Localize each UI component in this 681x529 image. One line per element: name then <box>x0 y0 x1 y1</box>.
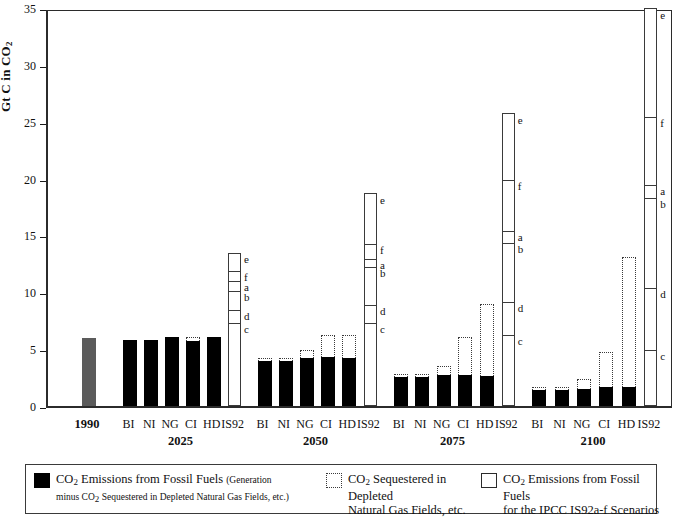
bar-sequestered-segment <box>458 337 472 375</box>
is92-segment-divider <box>503 180 514 181</box>
is92-segment-divider <box>365 259 376 260</box>
bar-fossil-emissions <box>321 354 335 406</box>
bar-fossil-emissions <box>599 384 613 406</box>
is92-segment-label-b: b <box>380 268 386 279</box>
is92-segment-label-e: e <box>660 10 665 21</box>
is92-segment-divider <box>645 288 656 289</box>
bar-sequestered-segment <box>300 350 314 358</box>
is92-segment-divider <box>645 185 656 186</box>
is92-segment-label-d: d <box>660 289 666 300</box>
y-axis-label-main: Gt C in CO <box>0 46 13 112</box>
is92-segment-label-e: e <box>380 195 385 206</box>
is92-segment-divider <box>503 243 514 244</box>
bar-sequestered-segment <box>258 358 272 361</box>
is92-segment-divider <box>503 335 514 336</box>
y-axis-tick-label: 0 <box>2 402 36 412</box>
is92-segment-divider <box>645 117 656 118</box>
legend-swatch-black <box>34 473 50 488</box>
bar-fossil-emissions <box>577 386 591 406</box>
bar-sequestered-segment <box>394 374 408 377</box>
bar-fossil-emissions <box>394 374 408 406</box>
x-axis-group-label-2075: 2075 <box>413 434 493 449</box>
is92-segment-divider <box>503 231 514 232</box>
legend-item-2: CO2 Emissions from Fossil Fuelsfor the I… <box>481 472 661 517</box>
bar-fossil-emissions <box>300 355 314 406</box>
is92-segment-label-b: b <box>660 199 666 210</box>
legend-swatch-open <box>481 473 497 488</box>
is92-segment-divider <box>645 350 656 351</box>
x-axis-group-label-2050: 2050 <box>276 434 356 449</box>
is92-segment-label-b: b <box>244 292 250 303</box>
legend-line-1-paren: (Generation <box>226 475 271 485</box>
is92-segment-divider <box>365 267 376 268</box>
bar-sequestered-segment <box>599 352 613 387</box>
bar-sequestered-segment <box>532 387 546 390</box>
bar-sequestered-segment <box>321 335 335 357</box>
is92-segment-divider <box>229 281 240 282</box>
bar-fossil-emissions <box>437 372 451 406</box>
bar-sequestered-segment <box>555 387 569 390</box>
bar-is92-scenarios <box>228 253 241 407</box>
is92-segment-label-e: e <box>518 115 523 126</box>
bar-fossil-emissions <box>342 355 356 406</box>
bar-fossil-emissions <box>279 358 293 406</box>
bar-fossil-emissions <box>415 374 429 406</box>
is92-segment-divider <box>229 271 240 272</box>
bar-is92-scenarios <box>644 8 657 406</box>
is92-segment-label-e: e <box>244 254 249 265</box>
legend-label: CO2 Emissions from Fossil Fuels (Generat… <box>56 472 289 506</box>
y-axis-tick-label: 5 <box>2 345 36 355</box>
bar-fossil-emissions <box>458 372 472 406</box>
legend-line-1: CO2 Emissions from Fossil Fuels <box>56 472 223 486</box>
is92-segment-label-c: c <box>518 336 523 347</box>
is92-segment-divider <box>229 291 240 292</box>
bar-sequestered-segment <box>342 335 356 358</box>
bar-sequestered-segment <box>279 358 293 361</box>
is92-segment-divider <box>365 305 376 306</box>
is92-segment-label-c: c <box>380 324 385 335</box>
x-axis-tick-label-is92: IS92 <box>629 417 669 432</box>
y-axis-tick-label: 30 <box>2 61 36 71</box>
legend-item-0: CO2 Emissions from Fossil Fuels (Generat… <box>34 472 324 506</box>
is92-segment-label-f: f <box>518 181 522 192</box>
is92-segment-divider <box>645 198 656 199</box>
y-axis-tick-label: 35 <box>2 4 36 14</box>
is92-segment-label-d: d <box>380 306 386 317</box>
bar-sequestered-segment <box>622 257 636 388</box>
legend-label: CO2 Emissions from Fossil Fuelsfor the I… <box>503 472 661 517</box>
is92-segment-divider <box>229 310 240 311</box>
y-axis-tick-label: 15 <box>2 231 36 241</box>
legend-line-1: CO2 Sequestered in Depleted <box>348 472 446 503</box>
is92-segment-label-d: d <box>244 311 250 322</box>
bar-sequestered-segment <box>480 304 494 376</box>
emissions-bar-chart: Gt C in CO2 05101520253035 efabdcefabdce… <box>0 0 681 529</box>
is92-segment-label-c: c <box>660 351 665 362</box>
y-axis-tick-label: 10 <box>2 288 36 298</box>
is92-segment-divider <box>229 323 240 324</box>
is92-segment-label-f: f <box>380 245 384 256</box>
bar-sequestered-segment <box>577 379 591 388</box>
is92-segment-label-f: f <box>660 118 664 129</box>
y-axis-tick-mark <box>40 408 46 409</box>
y-axis-label-subscript: 2 <box>4 41 14 46</box>
bar-fossil-emissions <box>82 338 96 406</box>
bar-fossil-emissions <box>207 337 221 406</box>
legend-line-2: minus CO2 Sequestered in Depleted Natura… <box>56 492 289 502</box>
x-axis-group-label-2025: 2025 <box>141 434 221 449</box>
is92-segment-label-c: c <box>244 324 249 335</box>
is92-segment-label-a: a <box>518 232 523 243</box>
bar-sequestered-segment <box>415 374 429 377</box>
bar-is92-scenarios <box>364 193 377 406</box>
bar-fossil-emissions <box>480 373 494 406</box>
plot-inner: efabdcefabdcefabdcefabdc <box>48 11 671 406</box>
bar-fossil-emissions <box>186 338 200 406</box>
is92-segment-label-a: a <box>660 186 665 197</box>
bar-fossil-emissions <box>165 337 179 406</box>
plot-area: efabdcefabdcefabdcefabdc <box>46 10 672 408</box>
y-axis-label: Gt C in CO2 <box>0 0 14 112</box>
y-axis-tick-label: 25 <box>2 118 36 128</box>
y-axis-tick-label: 20 <box>2 175 36 185</box>
legend: CO2 Emissions from Fossil Fuels (Generat… <box>25 464 657 514</box>
x-axis-group-label-2100: 2100 <box>553 434 633 449</box>
bar-fossil-emissions <box>144 340 158 406</box>
